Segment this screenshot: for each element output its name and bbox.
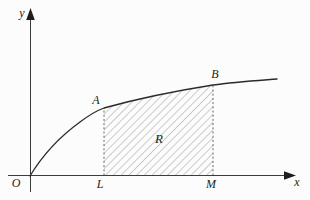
figure-canvas: y x O L M A B R — [0, 0, 310, 200]
region-r-label: R — [154, 131, 163, 146]
origin-label: O — [12, 176, 21, 190]
point-m-label: M — [205, 177, 217, 191]
region-under-curve-figure: y x O L M A B R — [0, 0, 310, 200]
point-b-label: B — [211, 67, 219, 81]
point-a-label: A — [91, 93, 100, 107]
point-l-label: L — [96, 177, 104, 191]
y-axis-label: y — [18, 6, 25, 20]
y-axis-arrowhead-icon — [26, 8, 35, 20]
x-axis-label: x — [293, 175, 300, 189]
